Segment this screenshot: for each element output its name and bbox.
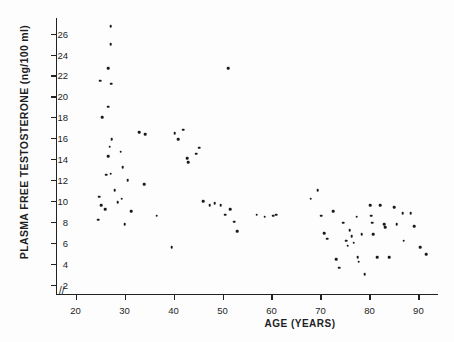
- data-point: [335, 258, 338, 261]
- data-point: [138, 131, 141, 134]
- data-point: [195, 153, 198, 156]
- data-point: [357, 260, 360, 263]
- data-point: [123, 223, 126, 226]
- data-point: [236, 230, 239, 233]
- data-point: [425, 253, 428, 256]
- data-point: [107, 155, 110, 158]
- x-tick: [418, 295, 419, 300]
- data-point: [110, 83, 113, 86]
- data-point: [143, 183, 146, 186]
- data-point: [198, 146, 201, 149]
- data-point: [275, 213, 278, 216]
- data-point: [409, 212, 412, 215]
- data-point: [369, 204, 372, 207]
- x-tick-label: 70: [315, 305, 326, 316]
- x-tick-label: 20: [70, 305, 81, 316]
- data-point: [98, 195, 101, 198]
- data-point: [363, 273, 366, 276]
- x-tick: [320, 295, 321, 300]
- x-tick: [223, 295, 224, 300]
- data-point: [101, 116, 104, 119]
- data-point: [100, 204, 103, 207]
- data-point: [119, 150, 122, 153]
- x-tick-label: 80: [364, 305, 375, 316]
- plot-area: // 2468101214161820222426 20304050607080…: [56, 18, 438, 295]
- data-point: [316, 189, 319, 192]
- data-point: [121, 166, 124, 169]
- data-point: [355, 215, 358, 218]
- data-point: [338, 267, 341, 270]
- data-point: [413, 225, 416, 228]
- y-axis-label: PLASMA FREE TESTOSTERONE (ng/100 ml): [18, 0, 36, 292]
- data-points-layer: [56, 18, 438, 295]
- data-point: [349, 229, 352, 232]
- x-tick-label: 60: [266, 305, 277, 316]
- data-point: [233, 221, 236, 224]
- data-point: [109, 145, 112, 148]
- data-point: [351, 235, 354, 238]
- data-point: [345, 239, 348, 242]
- data-point: [110, 43, 113, 46]
- data-point: [120, 198, 123, 201]
- data-point: [107, 67, 110, 70]
- x-tick-label: 30: [119, 305, 130, 316]
- data-point: [224, 213, 227, 216]
- data-point: [110, 25, 113, 28]
- x-tick: [76, 295, 77, 300]
- data-point: [371, 222, 374, 225]
- data-point: [309, 198, 312, 201]
- data-point: [326, 237, 329, 240]
- data-point: [229, 208, 232, 211]
- data-point: [393, 206, 396, 209]
- data-point: [342, 222, 345, 225]
- data-point: [156, 214, 159, 217]
- data-point: [372, 233, 375, 236]
- data-point: [379, 204, 382, 207]
- data-point: [419, 246, 422, 249]
- data-point: [130, 210, 133, 213]
- x-tick-label: 40: [168, 305, 179, 316]
- data-point: [227, 67, 230, 70]
- data-point: [104, 208, 107, 211]
- data-point: [182, 129, 185, 132]
- data-point: [219, 204, 222, 207]
- data-point: [347, 245, 350, 248]
- x-tick: [125, 295, 126, 300]
- data-point: [320, 214, 323, 217]
- data-point: [177, 138, 180, 141]
- data-point: [144, 133, 147, 136]
- data-point: [376, 256, 379, 259]
- data-point: [202, 200, 205, 203]
- data-point: [97, 218, 100, 221]
- data-point: [113, 189, 116, 192]
- x-tick: [369, 295, 370, 300]
- data-point: [384, 226, 387, 229]
- data-point: [187, 161, 190, 164]
- data-point: [126, 179, 129, 182]
- data-point: [396, 223, 399, 226]
- data-point: [213, 202, 216, 205]
- data-point: [388, 256, 391, 259]
- x-tick: [174, 295, 175, 300]
- data-point: [110, 172, 113, 175]
- data-point: [323, 232, 326, 235]
- data-point: [186, 157, 189, 160]
- x-axis-label: AGE (YEARS): [264, 318, 335, 329]
- data-point: [105, 173, 108, 176]
- data-point: [356, 256, 359, 259]
- data-point: [360, 233, 363, 236]
- data-point: [402, 239, 405, 242]
- data-point: [255, 213, 258, 216]
- data-point: [116, 201, 119, 204]
- data-point: [332, 210, 335, 213]
- data-point: [263, 215, 266, 218]
- data-point: [208, 204, 211, 207]
- data-point: [99, 79, 102, 82]
- data-point: [111, 138, 114, 141]
- x-tick-label: 50: [217, 305, 228, 316]
- data-point: [401, 212, 404, 215]
- data-point: [170, 246, 173, 249]
- x-tick-label: 90: [413, 305, 424, 316]
- data-point: [370, 214, 373, 217]
- x-tick: [271, 295, 272, 300]
